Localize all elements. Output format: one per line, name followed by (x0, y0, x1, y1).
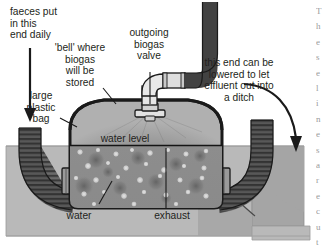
label-exhaust: exhaust (144, 210, 200, 222)
label-water-level: water level (92, 133, 158, 145)
biogas-digester-diagram: faeces put in this end daily 'bell' wher… (0, 0, 332, 248)
label-bell-gas-store: 'bell' where biogas will be stored (49, 42, 111, 88)
label-faeces-input: faeces put in this end daily (10, 6, 57, 41)
label-water: water (58, 210, 100, 222)
label-effluent-outlet: this end can be lowered to let effluent … (192, 57, 286, 103)
page-edge-text-column: Theselinesarecutoff (316, 0, 332, 248)
label-outgoing-valve: outgoing biogas valve (118, 27, 180, 62)
label-large-plastic-bag: large plastic bag (16, 90, 66, 125)
